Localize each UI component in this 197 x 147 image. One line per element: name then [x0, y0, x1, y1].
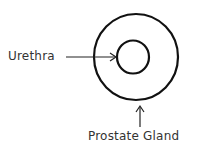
urethra-arrow	[66, 53, 116, 61]
prostate-arrow	[136, 106, 144, 127]
prostate-diagram	[0, 0, 197, 147]
urethra-label: Urethra	[8, 49, 55, 63]
urethra-circle	[117, 41, 149, 74]
prostate-gland-label: Prostate Gland	[88, 129, 179, 143]
